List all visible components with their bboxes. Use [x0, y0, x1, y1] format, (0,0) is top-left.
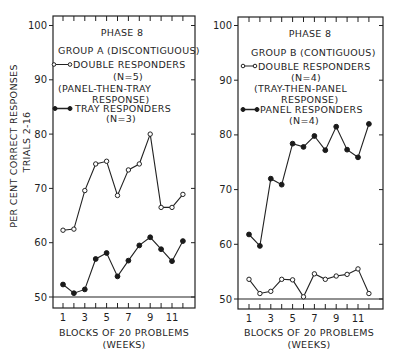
series-line	[249, 269, 369, 297]
right-legend-filled-label: PANEL RESPONDERS	[260, 104, 363, 115]
filled-circle-marker-icon	[279, 182, 284, 187]
open-circle-marker-icon	[312, 272, 316, 276]
filled-circle-marker-icon	[170, 259, 175, 264]
filled-circle-marker-icon	[82, 287, 87, 292]
open-circle-marker-icon	[83, 188, 87, 192]
y-tick-label: 100	[28, 20, 47, 31]
left-legend-filled-n: (N=3)	[106, 113, 136, 124]
left-legend-open-label: DOUBLE RESPONDERS	[73, 59, 186, 70]
y-tick-label: 90	[219, 75, 232, 86]
open-circle-marker-icon	[181, 192, 185, 196]
open-circle-marker-icon	[334, 274, 338, 278]
right-panel: 50607080901001357911 PHASE 8 GROUP B (CO…	[213, 17, 383, 350]
right-group-label: GROUP B (CONTIGUOUS)	[251, 47, 376, 58]
y-axis-label: PER CENT CORRECT RESPONSES TRIALS 2-16	[8, 64, 32, 228]
filled-circle-marker-icon	[159, 247, 164, 252]
x-tick-label: 7	[125, 312, 131, 323]
filled-circle-marker-icon	[93, 257, 98, 262]
open-circle-marker-icon	[104, 159, 108, 163]
y-tick-label: 80	[219, 129, 232, 140]
y-tick-label: 90	[34, 74, 47, 85]
y-axis-label-line2: TRIALS 2-16	[21, 112, 32, 174]
filled-circle-marker-icon	[356, 155, 361, 160]
open-circle-marker-icon	[115, 193, 119, 197]
filled-circle-marker-icon	[72, 291, 77, 296]
open-circle-marker-icon	[258, 291, 262, 295]
x-tick-label: 11	[352, 313, 365, 324]
left-group-label: GROUP A (DISCONTIGUOUS)	[58, 45, 200, 56]
right-legend-open-label: DOUBLE RESPONDERS	[258, 61, 371, 72]
x-tick-label: 7	[311, 313, 317, 324]
y-tick-label: 60	[219, 239, 232, 250]
x-tick-label: 3	[268, 313, 274, 324]
open-circle-marker-icon	[148, 132, 152, 136]
y-tick-label: 50	[34, 292, 47, 303]
filled-circle-marker-icon	[367, 122, 372, 127]
filled-circle-marker-icon	[345, 147, 350, 152]
y-tick-label: 60	[34, 237, 47, 248]
open-circle-marker-icon	[72, 227, 76, 231]
open-circle-marker-icon	[247, 277, 251, 281]
right-x-axis-label: BLOCKS OF 20 PROBLEMS	[244, 327, 374, 338]
filled-circle-marker-icon	[301, 145, 306, 150]
open-circle-marker-icon	[159, 205, 163, 209]
filled-circle-marker-icon	[181, 239, 186, 244]
filled-circle-marker-icon	[290, 141, 295, 146]
series-line	[63, 134, 183, 230]
x-tick-label: 11	[166, 312, 179, 323]
open-circle-marker-icon	[137, 162, 141, 166]
open-circle-marker-icon	[323, 277, 327, 281]
open-circle-marker-icon	[61, 228, 65, 232]
y-tick-label: 80	[34, 129, 47, 140]
filled-circle-marker-icon	[334, 124, 339, 129]
open-circle-marker-icon	[356, 267, 360, 271]
series-line	[249, 124, 369, 246]
right-x-axis-sublabel: (WEEKS)	[287, 339, 330, 350]
filled-circle-marker-icon	[137, 243, 142, 248]
filled-circle-marker-icon	[115, 274, 120, 279]
right-legend-filled-n: (N=4)	[289, 115, 319, 126]
legend-open-marker-icon	[241, 64, 257, 68]
open-circle-marker-icon	[269, 289, 273, 293]
filled-circle-marker-icon	[61, 282, 66, 287]
open-circle-marker-icon	[280, 277, 284, 281]
open-circle-marker-icon	[367, 291, 371, 295]
right-legend-open-n: (N=4)	[291, 72, 321, 83]
x-tick-label: 1	[246, 313, 252, 324]
left-panel: 50607080901001357911 PHASE 8 GROUP A (DI…	[28, 16, 200, 350]
left-legend-open-n: (N=5)	[113, 71, 143, 82]
filled-circle-marker-icon	[126, 258, 131, 263]
open-circle-marker-icon	[126, 168, 130, 172]
left-panel-title: PHASE 8	[101, 27, 144, 38]
legend-open-marker-icon	[52, 63, 72, 67]
y-axis-label-line1: PER CENT CORRECT RESPONSES	[8, 64, 19, 228]
legend-filled-marker-icon	[241, 108, 259, 112]
filled-circle-marker-icon	[247, 232, 252, 237]
filled-circle-marker-icon	[312, 134, 317, 139]
y-tick-label: 100	[213, 20, 232, 31]
y-tick-label: 70	[219, 184, 232, 195]
filled-circle-marker-icon	[268, 176, 273, 181]
open-circle-marker-icon	[345, 272, 349, 276]
left-legend-open-note1: (PANEL-THEN-TRAY	[58, 83, 151, 94]
open-circle-marker-icon	[94, 162, 98, 166]
filled-circle-marker-icon	[104, 251, 109, 256]
series-line	[63, 237, 183, 293]
open-circle-marker-icon	[301, 295, 305, 299]
y-tick-label: 50	[219, 294, 232, 305]
x-tick-label: 1	[60, 312, 66, 323]
x-tick-label: 5	[289, 313, 295, 324]
x-tick-label: 3	[82, 312, 88, 323]
legend-filled-marker-icon	[53, 107, 72, 111]
filled-circle-marker-icon	[323, 148, 328, 153]
filled-circle-marker-icon	[148, 235, 153, 240]
open-circle-marker-icon	[290, 278, 294, 282]
figure: PER CENT CORRECT RESPONSES TRIALS 2-16 5…	[0, 0, 398, 357]
left-x-axis-label: BLOCKS OF 20 PROBLEMS	[59, 327, 189, 338]
x-tick-label: 9	[147, 312, 153, 323]
right-panel-title: PHASE 8	[289, 28, 332, 39]
filled-circle-marker-icon	[258, 244, 263, 249]
x-tick-label: 9	[333, 313, 339, 324]
y-tick-label: 70	[34, 183, 47, 194]
left-x-axis-sublabel: (WEEKS)	[102, 339, 145, 350]
